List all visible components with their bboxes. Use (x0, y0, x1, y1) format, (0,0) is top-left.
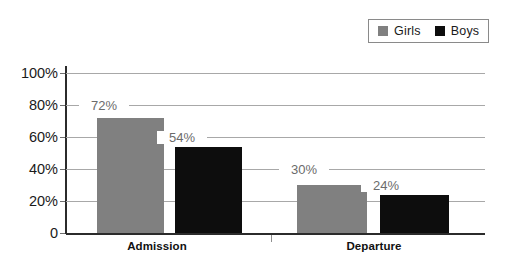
plot-area (66, 73, 485, 233)
y-tick-100: 100% (12, 66, 58, 81)
legend-item-boys: Boys (435, 25, 480, 38)
bar-girls-departure[interactable] (297, 185, 367, 233)
y-tick-80: 80% (12, 98, 58, 113)
legend-label-boys: Boys (451, 25, 480, 38)
gridline-100 (66, 73, 485, 74)
x-label-departure: Departure (324, 241, 424, 253)
y-tick-0: 0 (12, 226, 58, 241)
x-label-admission: Admission (107, 241, 207, 253)
bar-label-girls-departure: 30% (279, 163, 329, 176)
bar-label-boys-departure: 24% (361, 179, 411, 192)
bar-chart: Girls Boys 100% 80% 60% 40% 20% 0 (0, 0, 505, 278)
bar-boys-departure[interactable] (380, 195, 449, 233)
y-tick-60: 60% (12, 130, 58, 145)
x-axis-center-tick (271, 235, 272, 242)
bar-label-boys-admission: 54% (157, 131, 207, 144)
y-tick-20: 20% (12, 194, 58, 209)
bar-girls-admission[interactable] (97, 118, 164, 233)
y-axis-labels: 100% 80% 60% 40% 20% 0 (0, 0, 58, 278)
boys-swatch-icon (435, 26, 445, 36)
bar-label-girls-admission: 72% (79, 99, 129, 112)
y-tick-40: 40% (12, 162, 58, 177)
legend-label-girls: Girls (394, 25, 421, 38)
x-axis-line (66, 233, 485, 235)
chart-legend: Girls Boys (368, 19, 489, 43)
legend-item-girls: Girls (378, 25, 421, 38)
bar-boys-admission[interactable] (175, 147, 242, 233)
girls-swatch-icon (378, 26, 388, 36)
